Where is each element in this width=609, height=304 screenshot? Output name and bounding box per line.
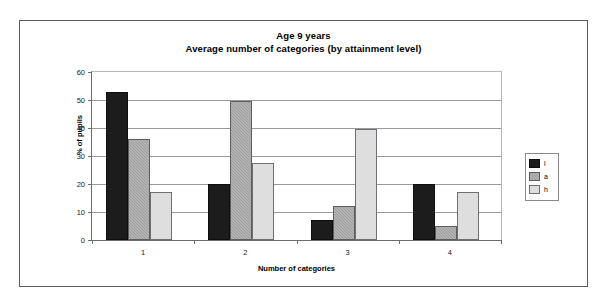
plot-area: 01020304050601234 — [91, 71, 502, 241]
gridline — [92, 100, 501, 101]
gridline — [92, 184, 501, 185]
legend-item-l: l — [529, 157, 555, 170]
chart-legend: lah — [525, 153, 559, 201]
bar-l-3 — [311, 220, 333, 240]
bar-a-4 — [435, 226, 457, 240]
black-swatch — [529, 159, 540, 168]
bar-l-4 — [413, 184, 435, 240]
y-axis-tick-label: 10 — [77, 208, 85, 217]
bar-l-2 — [208, 184, 230, 240]
legend-item-h: h — [529, 183, 555, 196]
y-axis-tick-mark — [88, 100, 92, 101]
gridline — [92, 128, 501, 129]
x-axis-tick-mark — [92, 240, 93, 244]
y-axis-tick-mark — [88, 184, 92, 185]
bar-h-3 — [355, 129, 377, 240]
x-axis-label: Number of categories — [91, 264, 502, 273]
x-axis-tick-label-1: 1 — [141, 248, 145, 257]
y-axis-tick-label: 60 — [77, 68, 85, 77]
x-axis-tick-label-2: 2 — [243, 248, 247, 257]
light-gray-swatch — [529, 185, 540, 194]
y-axis-label: % of pupils — [75, 115, 84, 155]
x-axis-tick-mark — [501, 240, 502, 244]
x-axis-tick-mark — [297, 240, 298, 244]
y-axis-tick-mark — [88, 156, 92, 157]
gridline — [92, 156, 501, 157]
bar-a-1 — [128, 139, 150, 240]
chart-title-line-1: Age 9 years — [20, 29, 587, 42]
x-axis-tick-mark — [194, 240, 195, 244]
legend-label-a: a — [544, 173, 548, 180]
legend-label-l: l — [544, 160, 546, 167]
y-axis-tick-label: 50 — [77, 96, 85, 105]
x-axis-tick-label-4: 4 — [448, 248, 452, 257]
legend-label-h: h — [544, 186, 548, 193]
bar-h-4 — [457, 192, 479, 240]
legend-item-a: a — [529, 170, 555, 183]
y-axis-tick-mark — [88, 72, 92, 73]
y-axis-tick-label: 20 — [77, 180, 85, 189]
y-axis-tick-mark — [88, 128, 92, 129]
x-axis-tick-label-3: 3 — [346, 248, 350, 257]
y-axis-tick-label: 40 — [77, 124, 85, 133]
y-axis-tick-mark — [88, 212, 92, 213]
bar-h-2 — [252, 163, 274, 240]
y-axis-tick-label: 30 — [77, 152, 85, 161]
chart-title-line-2: Average number of categories (by attainm… — [20, 42, 587, 55]
bar-a-2 — [230, 101, 252, 240]
bar-l-1 — [106, 92, 128, 240]
bar-a-3 — [333, 206, 355, 240]
bar-h-1 — [150, 192, 172, 240]
x-axis-tick-mark — [399, 240, 400, 244]
chart-figure-frame: Age 9 years Average number of categories… — [19, 20, 588, 287]
gray-swatch — [529, 172, 540, 181]
y-axis-tick-label: 0 — [81, 236, 85, 245]
chart-title: Age 9 years Average number of categories… — [20, 29, 587, 55]
